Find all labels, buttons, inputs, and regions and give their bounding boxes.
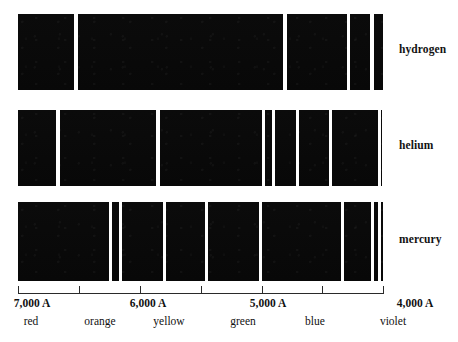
band-fill <box>18 110 382 186</box>
axis-tick-label: 7,000 A <box>14 297 50 309</box>
emission-line <box>329 110 332 186</box>
emission-line <box>205 202 208 281</box>
axis-tick <box>140 286 141 294</box>
band-fill <box>18 14 383 90</box>
emission-line <box>370 14 374 90</box>
spectrum-band-hydrogen <box>18 14 383 90</box>
emission-line <box>56 110 60 186</box>
emission-line <box>272 110 275 186</box>
emission-line <box>259 202 262 281</box>
axis-tick <box>79 286 80 294</box>
axis-tick <box>383 286 384 294</box>
spectrum-band-helium <box>18 110 382 186</box>
emission-line <box>109 202 112 281</box>
color-band-label: orange <box>84 315 115 327</box>
spectrum-row-hydrogen: hydrogen <box>0 14 458 90</box>
emission-line <box>378 110 381 186</box>
axis-tick <box>322 286 323 294</box>
emission-line <box>347 14 350 90</box>
emission-line <box>163 202 166 281</box>
emission-line <box>119 202 122 281</box>
emission-line <box>74 14 78 90</box>
color-band-label: yellow <box>153 315 184 327</box>
axis-tick <box>201 286 202 294</box>
emission-line <box>156 110 160 186</box>
color-band-label: green <box>230 315 256 327</box>
emission-line <box>283 14 287 90</box>
emission-line <box>296 110 299 186</box>
band-fill <box>18 202 383 281</box>
axis-tick-label: 4,000 A <box>397 297 433 309</box>
spectrum-band-mercury <box>18 202 383 281</box>
emission-spectra-figure: hydrogen helium mercury 7,000 A6,000 A5,… <box>0 0 458 342</box>
emission-line <box>341 202 344 281</box>
axis-tick <box>262 286 263 294</box>
axis-tick-label: 5,000 A <box>250 297 286 309</box>
axis-tick-label: 6,000 A <box>130 297 166 309</box>
spectrum-row-mercury: mercury <box>0 202 458 281</box>
color-band-label: blue <box>305 315 325 327</box>
axis-baseline <box>18 293 383 294</box>
color-band-label: red <box>24 315 39 327</box>
series-label-hydrogen: hydrogen <box>399 43 446 55</box>
series-label-helium: helium <box>399 139 433 151</box>
series-label-mercury: mercury <box>399 233 442 245</box>
spectrum-row-helium: helium <box>0 110 458 186</box>
emission-line <box>378 202 381 281</box>
color-band-label: violet <box>380 315 406 327</box>
emission-line <box>371 202 374 281</box>
axis-tick <box>18 286 19 294</box>
emission-line <box>262 110 265 186</box>
